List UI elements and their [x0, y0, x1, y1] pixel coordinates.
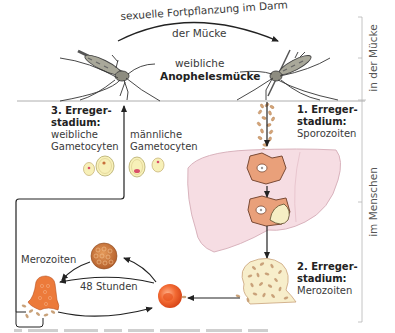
liver-cell-icon [247, 153, 286, 184]
arrow-merozoites-to-rbc [58, 308, 152, 316]
stage-1-number: 1. Erreger- [297, 104, 358, 116]
mosquito-label-line2: Anophelesmücke [160, 70, 260, 82]
stage-1-name: Sporozoiten [297, 128, 358, 140]
sporozoite-cluster-icon [257, 103, 276, 153]
side-label-human: im Menschen [367, 167, 379, 237]
mosquito-label-line1: weibliche [175, 57, 224, 69]
stage-3-label: 3. Erreger- stadium: weibliche Gametocyt… [51, 105, 119, 153]
liver-schizont-icon [248, 196, 290, 226]
male-gametocytes-line1: männliche [130, 129, 198, 141]
stage-3-name-line1: weibliche [51, 129, 119, 141]
malaria-lifecycle-diagram: sexuelle Fortpflanzung im Darm der Mücke… [0, 0, 395, 333]
stage-3-name-line2: Gametocyten [51, 141, 119, 153]
male-gametocytes-label: männliche Gametocyten [130, 129, 198, 153]
merozoite-cell-icon [235, 258, 296, 304]
stage-1-label: 1. Erreger- stadium: Sporozoiten [297, 104, 358, 140]
red-blood-cell-icon [158, 284, 186, 308]
side-label-mosquito: in der Mücke [367, 23, 379, 93]
stage-2-number: 2. Erreger- [297, 261, 358, 273]
ruptured-cell-icon [21, 276, 58, 319]
stage-2-stadium: stadium: [297, 273, 358, 285]
merozoites-cycle-label: Merozoiten [21, 254, 76, 266]
mosquito-left-icon [60, 51, 160, 101]
duration-label: 48 Stunden [80, 281, 138, 293]
stage-2-label: 2. Erreger- stadium: Merozoiten [297, 261, 358, 297]
stage-3-number: 3. Erreger- [51, 105, 119, 117]
truncated-caption [14, 327, 294, 333]
arc-label-line2: der Mücke [172, 27, 226, 39]
stage-2-name: Merozoiten [297, 285, 358, 297]
stage-3-stadium: stadium: [51, 117, 119, 129]
side-ruler [358, 17, 366, 322]
male-gametocytes-line2: Gametocyten [130, 141, 198, 153]
schizont-icon [91, 243, 117, 269]
stage-1-stadium: stadium: [297, 116, 358, 128]
